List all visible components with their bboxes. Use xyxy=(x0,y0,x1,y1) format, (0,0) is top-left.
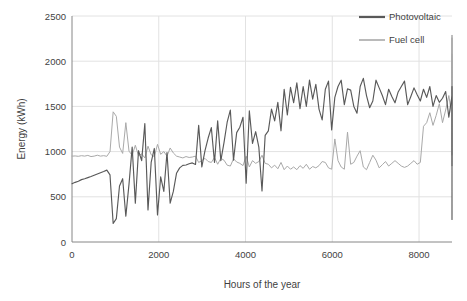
y-tick-label: 2000 xyxy=(45,56,66,67)
x-axis-title: Hours of the year xyxy=(224,279,301,290)
legend-label-fuel-cell: Fuel cell xyxy=(389,34,424,45)
x-tick-labels: 02000400060008000 xyxy=(69,249,429,260)
x-tick-label: 6000 xyxy=(322,249,343,260)
y-axis-title: Energy (kWh) xyxy=(16,98,27,159)
y-tick-label: 1500 xyxy=(45,101,66,112)
y-tick-label: 500 xyxy=(50,191,66,202)
gridlines xyxy=(72,16,452,242)
plot-series xyxy=(72,35,452,223)
y-tick-label: 2500 xyxy=(45,11,66,22)
x-tick-label: 2000 xyxy=(148,249,169,260)
y-tick-labels: 05001000150020002500 xyxy=(45,11,66,248)
y-tick-label: 0 xyxy=(61,237,66,248)
x-tick-label: 4000 xyxy=(235,249,256,260)
x-tick-label: 0 xyxy=(69,249,74,260)
energy-line-chart: 05001000150020002500 02000400060008000 P… xyxy=(0,0,467,301)
chart-container: 05001000150020002500 02000400060008000 P… xyxy=(0,0,467,301)
x-tick-label: 8000 xyxy=(408,249,429,260)
y-tick-label: 1000 xyxy=(45,146,66,157)
legend-label-photovoltaic: Photovoltaic xyxy=(389,11,441,22)
